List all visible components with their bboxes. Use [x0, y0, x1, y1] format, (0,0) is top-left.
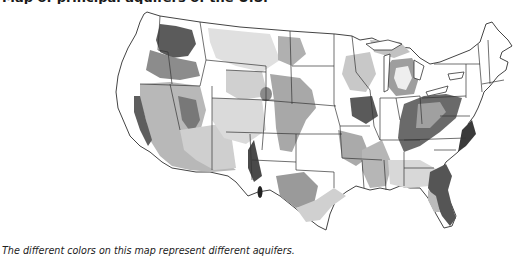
aquifer-tularosa [258, 186, 263, 198]
map-caption: The different colors on this map represe… [2, 245, 295, 256]
aquifer-map [0, 0, 529, 250]
us-aquifer-map-svg [0, 0, 529, 250]
